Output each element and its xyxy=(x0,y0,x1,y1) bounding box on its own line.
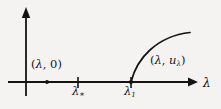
bifurcation-diagram-figure: (λ, 0) (λ, uλ) λ∗ λ1 λ xyxy=(0,0,221,109)
lambda-symbol: λ xyxy=(36,57,43,71)
y-axis-arrowhead xyxy=(22,7,30,18)
lambda-symbol: λ xyxy=(155,53,162,67)
nontrivial-branch-annotation: (λ, uλ) xyxy=(150,55,186,67)
u-subscript-lambda: λ xyxy=(177,59,182,68)
trivial-solution-point-marker xyxy=(45,80,49,84)
paren-close: ) xyxy=(57,57,62,71)
x-axis-label: λ xyxy=(203,77,211,89)
lambda-symbol: λ xyxy=(203,76,211,90)
tick-label-lambda-one: λ1 xyxy=(124,86,136,98)
comma: , xyxy=(43,57,50,71)
u-symbol: u xyxy=(169,53,176,67)
tick-label-lambda-star: λ∗ xyxy=(72,86,85,98)
trivial-branch-annotation: (λ, 0) xyxy=(31,59,62,71)
one-subscript: 1 xyxy=(131,90,136,99)
paren-close: ) xyxy=(181,53,186,67)
star-subscript: ∗ xyxy=(79,89,85,99)
comma: , xyxy=(162,53,169,67)
diagram-canvas xyxy=(0,0,221,109)
x-axis-group xyxy=(8,78,198,87)
x-axis-arrowhead xyxy=(188,78,198,87)
